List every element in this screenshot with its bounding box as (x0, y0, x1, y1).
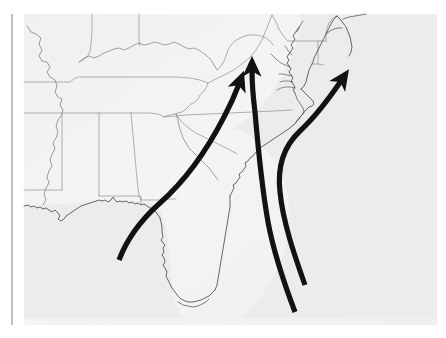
map-canvas (0, 0, 446, 338)
map-figure (0, 0, 446, 338)
gulf-fill (24, 200, 182, 318)
